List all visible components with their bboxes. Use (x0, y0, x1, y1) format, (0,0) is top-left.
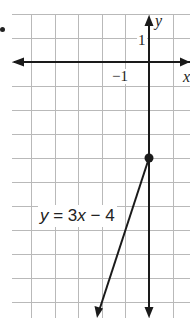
y-intercept-point (145, 154, 154, 163)
equation-label: y = 3x − 4 (38, 205, 117, 227)
equation-y: y (40, 206, 49, 225)
x-axis-left-arrow-icon (12, 58, 24, 67)
equation-equals-3: = 3 (49, 206, 78, 225)
y-tick-label-1: 1 (137, 33, 147, 48)
graph-line-y-3x-4 (99, 158, 149, 311)
equation-minus-4: − 4 (86, 206, 115, 225)
graph-line-arrow-icon (95, 306, 104, 318)
x-axis-label: x (183, 69, 190, 85)
x-tick-label-neg1: −1 (111, 69, 129, 84)
grid-lines (12, 15, 190, 318)
x-axis-right-arrow-icon (180, 58, 190, 67)
y-axis-down-arrow-icon (145, 307, 154, 318)
y-axis-up-arrow-icon (145, 15, 154, 26)
y-axis-label: y (155, 13, 162, 29)
problem-bullet (0, 27, 5, 32)
equation-x: x (77, 206, 86, 225)
coordinate-plane (0, 0, 190, 318)
